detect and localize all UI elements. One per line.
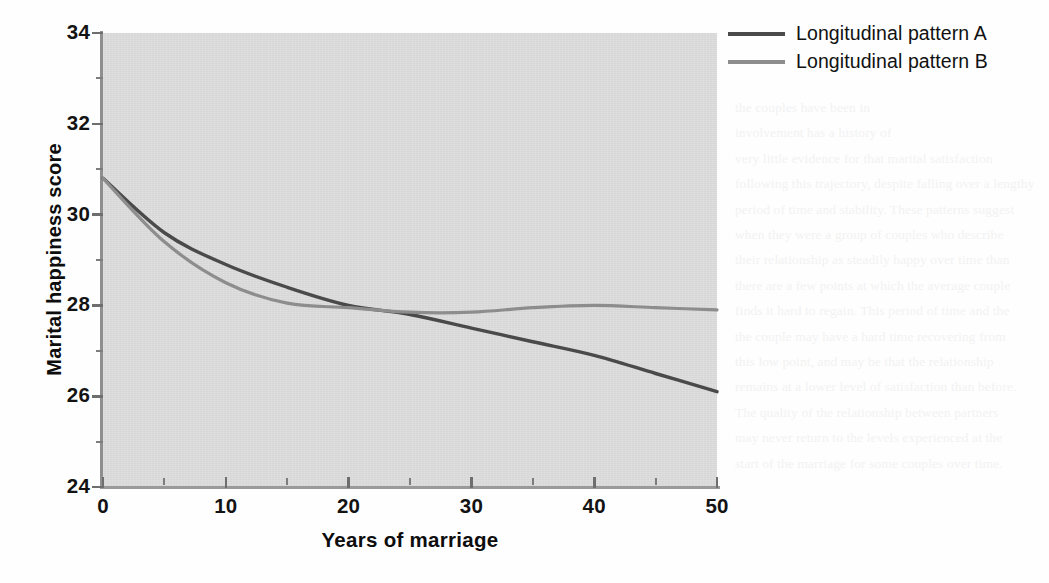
- y-tick-minor: [96, 168, 103, 170]
- legend-label-pattern-b: Longitudinal pattern B: [796, 50, 988, 73]
- x-tick-minor: [409, 478, 411, 485]
- x-tick-major: [225, 477, 228, 488]
- x-axis-title: Years of marriage: [103, 528, 717, 552]
- legend-swatch-pattern-a: [728, 32, 785, 36]
- x-tick-major: [716, 477, 719, 488]
- y-axis-title: Marital happiness score: [43, 110, 66, 410]
- series-line-pattern-b: [103, 178, 717, 313]
- legend: Longitudinal pattern A Longitudinal patt…: [728, 22, 988, 73]
- y-tick-minor: [96, 350, 103, 352]
- x-tick-label: 0: [73, 494, 133, 518]
- chart-lines-svg: [0, 0, 1049, 583]
- y-tick-major: [92, 32, 103, 35]
- legend-label-pattern-a: Longitudinal pattern A: [796, 22, 987, 45]
- y-tick-major: [92, 213, 103, 216]
- x-tick-label: 40: [564, 494, 624, 518]
- legend-swatch-pattern-b: [728, 60, 785, 64]
- x-tick-label: 20: [319, 494, 379, 518]
- x-tick-minor: [655, 478, 657, 485]
- y-tick-major: [92, 395, 103, 398]
- x-tick-minor: [163, 478, 165, 485]
- series-line-pattern-a: [103, 178, 717, 391]
- legend-item-pattern-a: Longitudinal pattern A: [728, 22, 988, 45]
- x-tick-label: 30: [441, 494, 501, 518]
- y-tick-minor: [96, 441, 103, 443]
- y-tick-minor: [96, 77, 103, 79]
- figure-container: the couples have been in involvement has…: [0, 0, 1049, 583]
- x-tick-major: [593, 477, 596, 488]
- x-tick-label: 50: [687, 494, 747, 518]
- y-tick-major: [92, 304, 103, 307]
- legend-item-pattern-b: Longitudinal pattern B: [728, 50, 988, 73]
- x-tick-minor: [286, 478, 288, 485]
- x-tick-major: [102, 477, 105, 488]
- y-tick-label: 34: [42, 20, 90, 44]
- x-tick-minor: [532, 478, 534, 485]
- y-tick-minor: [96, 259, 103, 261]
- x-tick-label: 10: [196, 494, 256, 518]
- x-tick-major: [347, 477, 350, 488]
- x-tick-major: [470, 477, 473, 488]
- y-tick-major: [92, 123, 103, 126]
